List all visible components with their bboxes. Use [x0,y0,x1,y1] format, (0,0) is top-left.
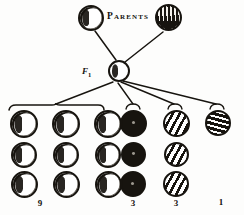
f2-open-r2c2 [53,142,79,168]
count-label-3b: 3 [171,199,181,208]
parent-circle-right [155,4,182,31]
bracket-wrinkled-group [210,104,224,109]
line-parent-left-to-f1 [95,31,116,60]
count-label-3a: 3 [128,199,138,208]
f2-open-r1c2 [52,110,80,138]
line-f1-to-group-wrinkled [123,81,216,104]
f1-generation-label: F1 [82,67,91,78]
f2-striped-r3 [163,171,189,197]
bracket-striped-group [168,104,182,109]
f2-solid-r3 [120,171,146,197]
line-f1-to-group-solid [118,83,133,104]
f2-wrinkled-r1 [205,110,231,136]
line-parent-right-to-f1 [125,32,163,62]
f2-striped-r1 [163,110,190,137]
f2-open-r2c3 [95,142,121,168]
f2-open-r3c1 [11,171,38,198]
count-label-9: 9 [35,199,45,208]
f1-circle [108,60,130,82]
f2-open-r2c1 [11,142,37,168]
bracket-solid-group [126,104,140,109]
line-f1-to-group-striped [121,82,174,104]
bracket-open-group [9,103,104,110]
f2-striped-r2 [164,142,189,167]
f2-solid-r2 [121,142,146,167]
count-label-1: 1 [216,198,226,207]
parents-label: Parents [107,12,149,22]
f2-open-r3c2 [53,171,80,198]
f2-open-r1c3 [94,110,122,138]
line-f1-to-group-open [56,82,113,104]
genetics-cross-diagram: Parents F1 9 3 3 1 [0,0,244,215]
f2-open-r3c3 [95,171,122,198]
f2-open-r1c1 [10,110,38,138]
parent-circle-left [78,5,104,31]
f2-solid-r1 [120,110,147,137]
f1-subscript: 1 [88,71,91,78]
